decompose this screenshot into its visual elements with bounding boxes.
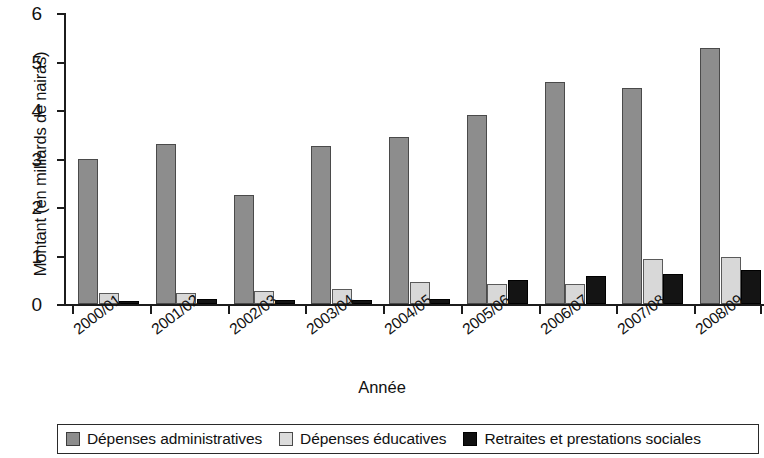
y-tick-label: 1 — [31, 246, 42, 265]
y-tick — [57, 62, 64, 64]
bar-2005-06-series-2 — [508, 280, 528, 304]
x-tick — [305, 306, 307, 314]
x-tick — [694, 306, 696, 314]
legend-label: Dépenses administratives — [87, 430, 262, 448]
bar-2007-08-series-0 — [622, 88, 642, 304]
y-tick — [57, 13, 64, 15]
black-swatch — [463, 432, 477, 446]
x-tick — [616, 306, 618, 314]
x-tick — [461, 306, 463, 314]
bar-2000-01-series-0 — [78, 159, 98, 305]
y-tick — [57, 256, 64, 258]
x-tick — [72, 306, 74, 314]
legend-item-0[interactable]: Dépenses administratives — [66, 430, 262, 448]
y-tick — [57, 110, 64, 112]
bar-2002-03-series-0 — [234, 195, 254, 304]
y-tick — [57, 207, 64, 209]
y-tick — [57, 304, 64, 306]
bar-2001-02-series-0 — [156, 144, 176, 304]
dark-gray-swatch — [66, 432, 80, 446]
bar-2008-09-series-0 — [700, 48, 720, 304]
y-tick-label: 0 — [31, 295, 42, 314]
light-gray-swatch — [279, 432, 293, 446]
x-tick — [383, 306, 385, 314]
x-tick — [539, 306, 541, 314]
y-tick-label: 3 — [31, 149, 42, 168]
chart-legend: Dépenses administrativesDépenses éducati… — [57, 424, 759, 454]
bar-2007-08-series-2 — [663, 274, 683, 304]
x-tick — [150, 306, 152, 314]
x-tick — [760, 306, 762, 314]
bar-2004-05-series-0 — [389, 137, 409, 304]
bar-2006-07-series-2 — [586, 276, 606, 304]
y-tick-label: 4 — [31, 101, 42, 120]
y-tick-label: 2 — [31, 198, 42, 217]
y-tick-label: 5 — [31, 52, 42, 71]
y-axis-line — [64, 13, 66, 306]
x-axis-title: Année — [0, 378, 764, 397]
bar-2008-09-series-2 — [741, 270, 761, 304]
legend-label: Retraites et prestations sociales — [484, 430, 700, 448]
bar-2005-06-series-0 — [467, 115, 487, 304]
legend-item-1[interactable]: Dépenses éducatives — [279, 430, 446, 448]
legend-label: Dépenses éducatives — [300, 430, 446, 448]
bar-2006-07-series-0 — [545, 82, 565, 304]
bar-2003-04-series-0 — [311, 146, 331, 304]
legend-item-2[interactable]: Retraites et prestations sociales — [463, 430, 700, 448]
bar-chart-figure: Montant (en milliards de nairas) 0123456… — [0, 0, 764, 458]
x-tick — [228, 306, 230, 314]
y-tick — [57, 159, 64, 161]
plot-area: 0123456 2000/012001/022002/032003/042004… — [64, 13, 764, 305]
y-tick-label: 6 — [31, 4, 42, 23]
